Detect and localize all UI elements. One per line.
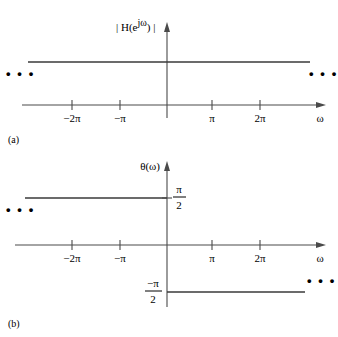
panel-b-positive-value-denominator: 2 (176, 199, 182, 211)
panel-b-negative-value-denominator: 2 (150, 293, 156, 305)
panel-b-caption: (b) (8, 318, 20, 330)
panel-b-positive-value-numerator: π (176, 183, 182, 195)
panel-a-svg: | H(ejω) | −2π −π π 2π ω • • • • • • (a) (0, 0, 338, 155)
panel-b-negative-value-label: −π 2 (145, 277, 162, 305)
panel-a-left-ellipsis: • • • (6, 66, 35, 81)
panel-b-negative-value-numerator: −π (147, 277, 159, 289)
figure-container: | H(ejω) | −2π −π π 2π ω • • • • • • (a) (0, 0, 338, 337)
panel-a-right-ellipsis: • • • (309, 66, 338, 81)
panel-a-y-axis-label: | H(ejω) | (116, 17, 155, 34)
panel-b-positive-value-label: π 2 (173, 183, 186, 211)
panel-a-caption: (a) (8, 134, 19, 146)
panel-a-tick-label-neg2pi: −2π (63, 112, 81, 124)
panel-a-y-label-head: | H(e (116, 21, 138, 34)
panel-a-y-label-tail: ) | (147, 21, 156, 34)
panel-a-y-axis (164, 22, 170, 118)
panel-b-phase-plot: θ(ω) π 2 −π 2 −2π −π π 2π ω • • • • • • (0, 155, 338, 337)
panel-b-tick-label-pi: π (209, 252, 215, 264)
panel-a-x-axis (22, 102, 326, 108)
panel-b-right-ellipsis: • • • (307, 273, 336, 288)
panel-a-tick-label-2pi: 2π (254, 112, 266, 124)
panel-a-tick-label-pi: π (209, 112, 215, 124)
panel-a-magnitude-plot: | H(ejω) | −2π −π π 2π ω • • • • • • (a) (0, 0, 338, 155)
panel-a-x-axis-label: ω (316, 112, 323, 124)
panel-b-y-axis (164, 161, 170, 307)
panel-b-tick-label-neg2pi: −2π (63, 252, 81, 264)
panel-b-tick-label-negpi: −π (114, 252, 126, 264)
panel-b-tick-label-2pi: 2π (254, 252, 266, 264)
panel-b-x-axis (15, 242, 326, 248)
panel-b-x-axis-label: ω (316, 252, 323, 264)
panel-a-y-label-exponent: jω (136, 17, 147, 28)
panel-a-tick-label-negpi: −π (114, 112, 126, 124)
svg-text:| H(ejω) |: | H(ejω) | (116, 17, 155, 34)
panel-b-left-ellipsis: • • • (6, 202, 35, 217)
panel-b-y-axis-label: θ(ω) (140, 160, 160, 173)
panel-b-svg: θ(ω) π 2 −π 2 −2π −π π 2π ω • • • • • • (0, 155, 338, 337)
